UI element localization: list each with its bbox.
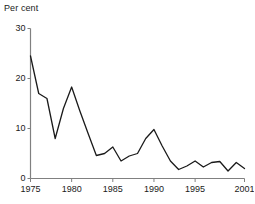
chart-container: Per cent 0102030 19751980198519901995200… — [0, 0, 254, 204]
x-tick-label: 1980 — [55, 185, 89, 194]
x-tick-label: 1975 — [14, 185, 48, 194]
x-tick-label: 1995 — [178, 185, 212, 194]
axes-group — [31, 29, 245, 179]
y-tick-label: 30 — [4, 24, 26, 33]
bottom-margin-spacer — [0, 198, 254, 204]
x-tick-label: 1985 — [96, 185, 130, 194]
y-tick-label: 20 — [4, 74, 26, 83]
data-series-line — [31, 56, 245, 171]
x-tick-label: 1990 — [137, 185, 171, 194]
tick-marks-group — [28, 29, 245, 183]
y-tick-label: 10 — [4, 124, 26, 133]
x-tick-label: 2001 — [228, 185, 255, 194]
plot-area — [0, 0, 254, 204]
y-tick-label: 0 — [4, 174, 26, 183]
